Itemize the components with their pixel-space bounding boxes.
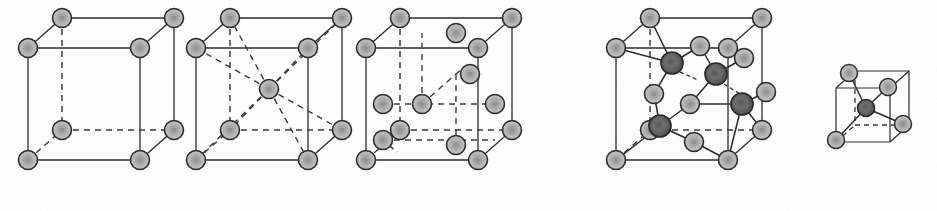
- lattice-drawing-surface: [0, 0, 937, 211]
- crystal-lattice-figure: (a) (b) sc bcc fcc Zincblende/diamond: [0, 0, 937, 211]
- bcc-body-centre-atom: [260, 80, 279, 99]
- tetrahedron-centre-atom: [858, 100, 875, 117]
